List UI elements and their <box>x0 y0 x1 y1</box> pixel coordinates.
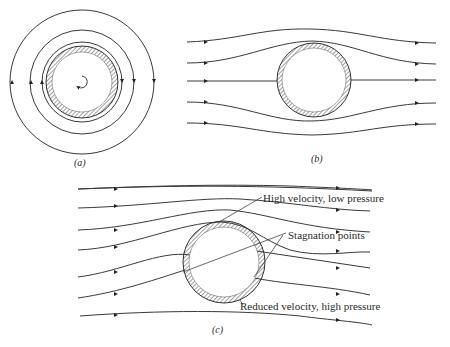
cylinder-a-inner <box>52 52 112 112</box>
panel-b: (b) <box>187 29 436 165</box>
cylinder-c-inner <box>189 227 259 297</box>
label-reduced-velocity: Reduced velocity, high pressure <box>240 300 381 312</box>
panel-a: (a) <box>10 10 156 169</box>
caption-a: (a) <box>74 157 86 169</box>
label-stagnation-points: Stagnation points <box>288 229 365 241</box>
caption-b: (b) <box>311 153 323 165</box>
magnus-effect-diagram: (a) (b) <box>0 0 450 347</box>
panel-c: High velocity, low pressure Stagnation p… <box>78 185 384 336</box>
label-high-velocity: High velocity, low pressure <box>263 192 384 204</box>
cylinder-b-inner <box>282 48 346 112</box>
caption-c: (c) <box>212 324 224 336</box>
